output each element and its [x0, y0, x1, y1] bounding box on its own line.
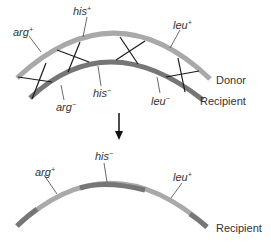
result-gene-his-label: his− — [95, 150, 113, 162]
result-gene-leu-label: leu+ — [173, 171, 192, 183]
recipient-chromosome — [30, 62, 203, 100]
donor-label: Donor — [216, 74, 246, 86]
recipient-label-top: Recipient — [200, 95, 246, 107]
donor-gene-his-label: his+ — [73, 5, 91, 17]
donor-gene-leu-label: leu+ — [173, 19, 192, 31]
recombination-diagram: arg+ his+ leu+ arg− his− leu− Donor Reci… — [0, 0, 271, 249]
recombinant-chromosome — [17, 183, 207, 227]
recipient-gene-his-label: his− — [93, 87, 111, 99]
recipient-gene-arg-label: arg− — [56, 101, 76, 113]
recipient-gene-leu-label: leu− — [151, 95, 170, 107]
recipient-label-bottom: Recipient — [216, 222, 262, 234]
down-arrow-icon — [115, 113, 123, 140]
donor-gene-arg-label: arg+ — [13, 26, 33, 38]
result-gene-arg-label: arg+ — [35, 166, 55, 178]
diagram-canvas: arg+ his+ leu+ arg− his− leu− Donor Reci… — [0, 0, 271, 249]
